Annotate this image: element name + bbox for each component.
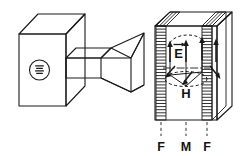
flange-band-left <box>156 12 180 120</box>
pyramidal-horn-antenna <box>101 33 144 92</box>
figure-canvas: E H F M F <box>0 0 247 156</box>
magnetron-waves-symbol <box>36 66 44 73</box>
waveguide <box>66 48 111 78</box>
callout-flange-left: F <box>157 140 165 154</box>
h-field-vector-label: H <box>181 86 190 101</box>
e-field-vector-label: E <box>174 46 183 61</box>
diagram-svg: E H F M F <box>0 0 247 156</box>
callout-material: M <box>181 140 191 154</box>
sample-block <box>155 12 232 120</box>
callout-leader-lines <box>161 122 207 136</box>
magnetron-source-box <box>19 14 85 106</box>
magnetron-badge-circle <box>30 60 50 80</box>
loop-rail-diag-b <box>186 72 202 86</box>
callout-flange-right: F <box>203 140 211 154</box>
magnetron-badge <box>30 60 50 80</box>
flange-band-right <box>202 12 229 120</box>
loop-rail-diag-a <box>170 75 186 86</box>
